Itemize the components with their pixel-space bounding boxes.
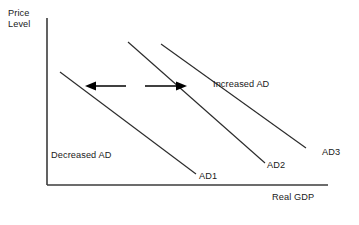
increased-ad-label: Increased AD	[213, 79, 269, 90]
y-axis-label-line1: Price	[8, 8, 29, 18]
y-axis-label: PriceLevel	[8, 8, 30, 31]
decreased-ad-label: Decreased AD	[51, 150, 111, 161]
ad3-curve	[161, 44, 306, 148]
decreased-ad-arrow	[85, 81, 126, 90]
ad2-label: AD2	[267, 160, 285, 171]
ad3-label: AD3	[322, 147, 340, 158]
ad1-label: AD1	[199, 171, 217, 182]
aggregate-demand-diagram: PriceLevel Real GDP Increased AD Decreas…	[0, 0, 359, 225]
ad2-curve	[128, 42, 265, 163]
y-axis-label-line2: Level	[8, 19, 30, 29]
x-axis-label: Real GDP	[272, 192, 314, 203]
